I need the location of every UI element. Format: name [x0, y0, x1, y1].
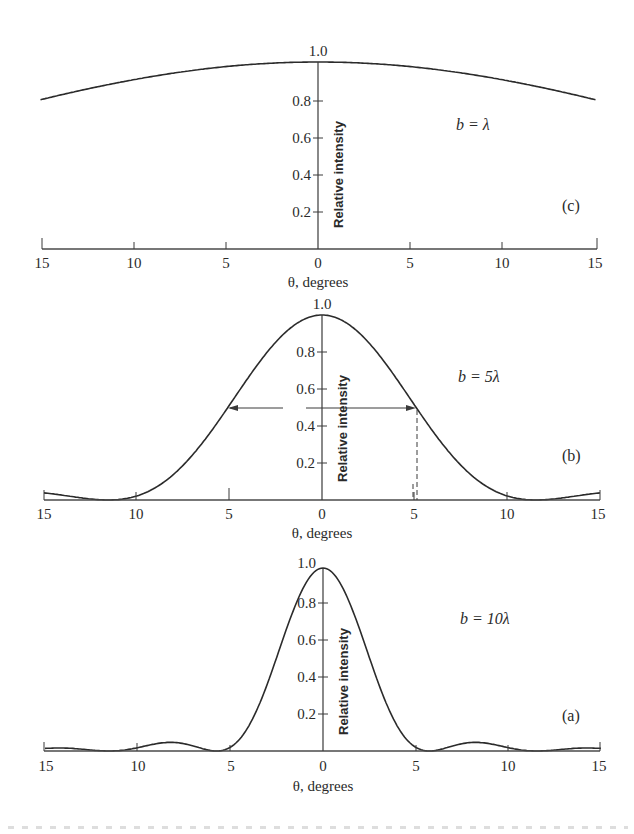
svg-text:0: 0	[318, 506, 326, 522]
y-axis-label-a: Relative intensity	[336, 627, 351, 735]
annotation-b: b = 5λ	[458, 368, 500, 385]
chart-panel-b: 15 10 5 0 5 10 15 0.2 0.4 0.6 0.8 1.0	[37, 296, 606, 541]
svg-text:15: 15	[37, 506, 52, 522]
svg-text:0: 0	[314, 255, 322, 271]
annotation-a: b = 10λ	[460, 610, 510, 627]
svg-text:0.6: 0.6	[297, 632, 316, 648]
svg-text:10: 10	[131, 758, 146, 774]
x-tick-labels-b: 15 10 5 0 5 10 15	[37, 506, 606, 522]
svg-text:15: 15	[591, 506, 606, 522]
svg-text:5: 5	[412, 758, 420, 774]
svg-text:5: 5	[222, 255, 230, 271]
svg-text:0: 0	[319, 758, 327, 774]
x-axis-label-a: θ, degrees	[293, 778, 354, 794]
panel-label-b: (b)	[562, 447, 581, 465]
x-tick-labels-a: 15 10 5 0 5 10 15	[39, 758, 607, 774]
svg-text:0.8: 0.8	[292, 93, 311, 109]
y-axis-label-b: Relative intensity	[335, 374, 350, 482]
svg-text:0.2: 0.2	[292, 204, 311, 220]
svg-text:15: 15	[588, 255, 603, 271]
svg-text:5: 5	[406, 255, 414, 271]
svg-text:0.4: 0.4	[296, 418, 315, 434]
svg-text:10: 10	[129, 506, 144, 522]
x-ticks-c	[42, 238, 597, 249]
chart-panel-a: 15 10 5 0 5 10 15 0.2 0.4 0.6 0.8 1.0 Re…	[39, 555, 607, 794]
x-axis-label-c: θ, degrees	[288, 274, 349, 290]
svg-text:0.2: 0.2	[297, 706, 316, 722]
panel-label-c: (c)	[562, 197, 580, 215]
x-tick-labels-c: 15 10 5 0 5 10 15	[35, 255, 603, 271]
svg-text:5: 5	[410, 506, 418, 522]
y-axis-label-c: Relative intensity	[331, 120, 346, 228]
svg-text:0.8: 0.8	[297, 595, 316, 611]
svg-text:0.8: 0.8	[296, 344, 315, 360]
svg-text:5: 5	[227, 758, 235, 774]
svg-text:10: 10	[495, 255, 510, 271]
svg-text:10: 10	[501, 758, 516, 774]
svg-text:10: 10	[500, 506, 515, 522]
x-axis-label-b: θ, degrees	[292, 525, 353, 541]
y-ticks-b: 0.2 0.4 0.6 0.8 1.0	[296, 296, 331, 471]
y-ticks-c: 0.2 0.4 0.6 0.8 1.0	[292, 43, 327, 220]
svg-text:0.2: 0.2	[296, 455, 315, 471]
svg-text:0.4: 0.4	[292, 167, 311, 183]
annotation-c: b = λ	[456, 116, 490, 133]
svg-text:5: 5	[225, 506, 233, 522]
svg-text:15: 15	[592, 758, 607, 774]
svg-text:1.0: 1.0	[309, 43, 328, 59]
svg-text:1.0: 1.0	[313, 296, 332, 312]
svg-text:10: 10	[127, 255, 142, 271]
svg-text:1.0: 1.0	[297, 555, 316, 571]
svg-text:15: 15	[39, 758, 54, 774]
svg-text:0.6: 0.6	[296, 381, 315, 397]
cropped-caption	[8, 826, 628, 829]
panel-label-a: (a)	[562, 707, 580, 725]
diffraction-figure: 15 10 5 0 5 10 15 0.2 0.4 0.6 0.8 1.0 Re…	[0, 0, 634, 834]
svg-text:0.6: 0.6	[292, 130, 311, 146]
chart-panel-c: 15 10 5 0 5 10 15 0.2 0.4 0.6 0.8 1.0 Re…	[35, 43, 603, 290]
svg-text:15: 15	[35, 255, 50, 271]
svg-text:0.4: 0.4	[297, 669, 316, 685]
